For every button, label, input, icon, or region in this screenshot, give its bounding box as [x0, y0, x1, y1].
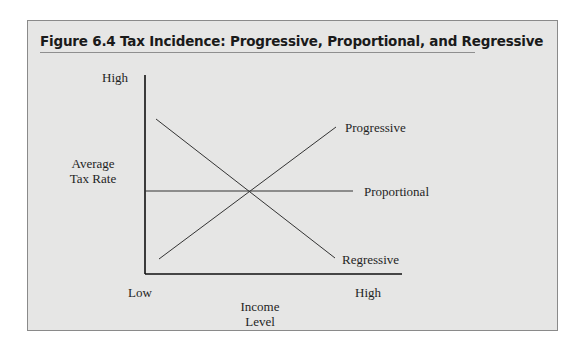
regressive-line	[156, 119, 335, 258]
proportional-label: Proportional	[364, 184, 429, 199]
regressive-label: Regressive	[342, 252, 399, 267]
x-axis-title-line2: Level	[225, 314, 295, 329]
x-high-label: High	[355, 285, 381, 300]
y-high-label: High	[102, 70, 128, 85]
y-axis-title-line2: Tax Rate	[52, 171, 134, 186]
x-axis-title: Income Level	[225, 299, 295, 329]
y-axis-title-line1: Average	[52, 156, 134, 171]
y-axis-title: Average Tax Rate	[52, 156, 134, 186]
x-axis-title-line1: Income	[225, 299, 295, 314]
progressive-line	[159, 127, 336, 259]
x-low-label: Low	[128, 285, 152, 300]
progressive-label: Progressive	[345, 120, 406, 135]
